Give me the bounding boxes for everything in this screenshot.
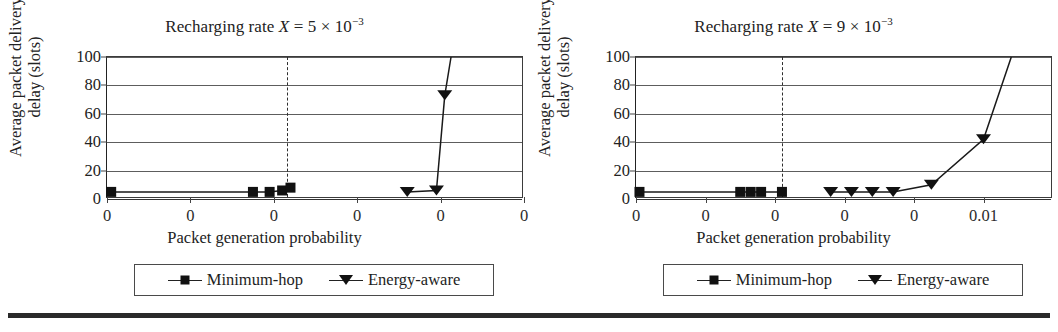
chart-panel-left: Recharging rate X = 5 × 10−3 Average pac…	[0, 0, 529, 300]
series-line-minimum-hop	[111, 188, 290, 192]
data-point-square	[265, 187, 275, 197]
plot-area-left: 100 80 60 40 20 0 0 0 0 0 0 0	[106, 56, 523, 198]
data-point-triangle	[924, 180, 939, 190]
chart-title-prefix: Recharging rate	[165, 17, 279, 36]
chart-title-value: = 5 × 10	[289, 17, 352, 36]
x-tick-mark-5	[524, 197, 525, 203]
data-point-square	[106, 187, 116, 197]
y-tick-label-100: 100	[55, 49, 101, 65]
x-tick-label-5: 0	[520, 207, 528, 225]
series-overlay-left	[107, 57, 524, 199]
square-marker-icon	[697, 273, 731, 287]
legend-label-energy-aware: Energy-aware	[368, 270, 460, 290]
legend-right: Minimum-hop Energy-aware	[663, 264, 1023, 296]
y-axis-label-left: Average packet delivery delay (slots)	[6, 0, 44, 162]
x-axis-label-right: Packet generation probability	[529, 228, 1058, 248]
triangle-marker-icon	[858, 273, 892, 287]
chart-panel-right: Recharging rate X = 9 × 10−3 Average pac…	[529, 0, 1058, 300]
y-tick-label-80: 80	[584, 77, 630, 93]
data-point-square	[285, 183, 295, 193]
data-point-triangle	[437, 90, 452, 100]
y-tick-label-40: 40	[584, 134, 630, 150]
y-tick-label-0: 0	[584, 191, 630, 207]
x-tick-label-1: 0	[186, 207, 194, 225]
y-tick-label-60: 60	[55, 106, 101, 122]
y-axis-label-right: Average packet delivery delay (slots)	[535, 0, 573, 162]
series-line-energy-aware	[831, 57, 1012, 192]
chart-title-left: Recharging rate X = 5 × 10−3	[0, 10, 529, 38]
data-point-square	[746, 187, 756, 197]
chart-title-value: = 9 × 10	[818, 17, 881, 36]
plot-area-right: 100 80 60 40 20 0 0 0 0 0 0 0.01	[635, 56, 1052, 198]
y-tick-label-60: 60	[584, 106, 630, 122]
series-overlay-right	[636, 57, 1053, 199]
legend-item-energy-aware[interactable]: Energy-aware	[329, 270, 460, 290]
x-tick-label-4: 0	[436, 207, 444, 225]
x-tick-label-5: 0.01	[969, 207, 998, 225]
gridline-0	[107, 199, 522, 200]
chart-title-prefix: Recharging rate	[694, 17, 808, 36]
x-tick-label-0: 0	[103, 207, 111, 225]
y-tick-label-100: 100	[584, 49, 630, 65]
y-tick-label-0: 0	[55, 191, 101, 207]
page-divider-rule	[8, 313, 1050, 318]
chart-title-exponent: −3	[881, 15, 893, 27]
data-point-square	[735, 187, 745, 197]
x-tick-label-3: 0	[353, 207, 361, 225]
chart-title-variable: X	[279, 17, 289, 36]
x-tick-label-3: 0	[840, 207, 848, 225]
data-point-square	[756, 187, 766, 197]
y-tick-label-80: 80	[55, 77, 101, 93]
data-point-square	[777, 187, 787, 197]
x-tick-label-4: 0	[910, 207, 918, 225]
triangle-marker-icon	[329, 273, 363, 287]
data-point-square	[634, 187, 644, 197]
y-tick-label-20: 20	[55, 163, 101, 179]
x-axis-label-left: Packet generation probability	[0, 228, 529, 248]
gridline-0	[636, 199, 1051, 200]
y-tick-label-20: 20	[584, 163, 630, 179]
legend-left: Minimum-hop Energy-aware	[134, 264, 494, 296]
x-tick-label-2: 0	[771, 207, 779, 225]
y-tick-label-40: 40	[55, 134, 101, 150]
series-line-energy-aware	[407, 57, 451, 192]
legend-label-energy-aware: Energy-aware	[897, 270, 989, 290]
x-tick-label-0: 0	[632, 207, 640, 225]
square-marker-icon	[168, 273, 202, 287]
data-point-triangle	[976, 134, 991, 144]
chart-title-right: Recharging rate X = 9 × 10−3	[529, 10, 1058, 38]
legend-item-minimum-hop[interactable]: Minimum-hop	[168, 270, 303, 290]
x-tick-label-2: 0	[270, 207, 278, 225]
legend-label-minimum-hop: Minimum-hop	[207, 270, 303, 290]
chart-title-variable: X	[808, 17, 818, 36]
legend-item-minimum-hop[interactable]: Minimum-hop	[697, 270, 832, 290]
data-point-square	[248, 187, 258, 197]
figure-root: Recharging rate X = 5 × 10−3 Average pac…	[0, 0, 1058, 332]
x-tick-label-1: 0	[701, 207, 709, 225]
legend-label-minimum-hop: Minimum-hop	[736, 270, 832, 290]
legend-item-energy-aware[interactable]: Energy-aware	[858, 270, 989, 290]
chart-title-exponent: −3	[352, 15, 364, 27]
